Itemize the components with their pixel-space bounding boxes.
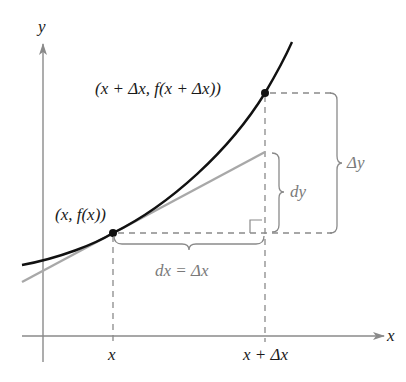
point-x-fx (109, 229, 117, 237)
dy-brace (272, 153, 284, 232)
dx-brace (114, 236, 264, 250)
y-axis-label: y (36, 17, 46, 36)
differential-diagram: y x x x + Δx (x, f(x)) (x + Δx, f(x + Δx… (0, 0, 406, 382)
x-axis-label: x (386, 326, 395, 345)
delta-y-label: Δy (346, 153, 365, 172)
right-angle-marker (250, 220, 262, 233)
function-curve (22, 42, 292, 265)
point-x-plus-dx (261, 89, 269, 97)
point-label-x-plus-dx: (x + Δx, f(x + Δx)) (95, 79, 221, 98)
delta-y-brace (330, 93, 342, 233)
tick-label-x-plus-dx: x + Δx (242, 345, 288, 364)
dx-label: dx = Δx (155, 261, 209, 280)
tick-label-x: x (107, 345, 116, 364)
dy-label: dy (290, 182, 307, 201)
point-label-x-fx: (x, f(x)) (55, 205, 106, 224)
